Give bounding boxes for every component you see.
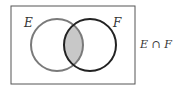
set-f-label: F xyxy=(112,16,122,30)
intersection-caption: E ∩ F xyxy=(139,38,172,51)
set-e-label: E xyxy=(23,16,33,30)
venn-diagram: E F E ∩ F xyxy=(0,0,180,90)
